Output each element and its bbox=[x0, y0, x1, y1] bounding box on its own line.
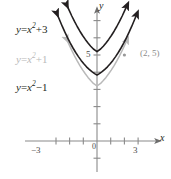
eq-mid-constant: 1 bbox=[42, 53, 48, 65]
x-axis-tick-label-neg3: −3 bbox=[31, 146, 41, 155]
y-axis-name-label: y bbox=[99, 1, 103, 11]
equation-label-top: y=x2+3 bbox=[16, 22, 47, 35]
eq-bot-constant: 1 bbox=[42, 81, 48, 93]
equation-label-bottom: y=x2−1 bbox=[16, 80, 47, 93]
point-annotation-label: (2, 5) bbox=[140, 49, 160, 58]
origin-label: 0 bbox=[92, 143, 96, 151]
point-marker-2-5 bbox=[123, 53, 126, 56]
x-axis-tick-label-3: 3 bbox=[133, 146, 138, 155]
x-axis-name-label: x bbox=[160, 133, 164, 143]
parabola-family-figure: y=x2+3 y=x2+1 y=x2−1 5 −3 3 0 x y (2, 5) bbox=[0, 0, 171, 179]
eq-top-constant: 3 bbox=[42, 23, 48, 35]
equation-label-middle: y=x2+1 bbox=[16, 52, 47, 65]
y-axis-tick-label-5: 5 bbox=[86, 50, 91, 59]
